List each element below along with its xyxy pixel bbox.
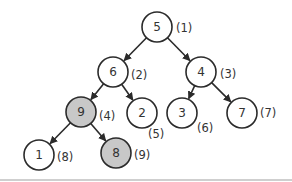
edge-arrow: [189, 86, 195, 99]
node-index-label: (5): [148, 127, 164, 141]
edge-arrow: [167, 38, 189, 61]
edge-arrow: [91, 123, 106, 140]
node-value: 8: [112, 146, 120, 160]
tree-node: 9(4): [66, 97, 115, 127]
edge-arrow: [212, 83, 231, 102]
node-value: 5: [153, 20, 161, 34]
tree-node: 3(6): [167, 98, 213, 135]
node-value: 4: [197, 65, 205, 79]
node-index-label: (9): [134, 148, 150, 162]
node-value: 3: [178, 106, 186, 120]
edge-arrow: [50, 123, 70, 144]
node-value: 6: [109, 65, 117, 79]
node-index-label: (8): [57, 150, 73, 164]
node-value: 1: [35, 148, 43, 162]
tree-node: 6(2): [98, 57, 147, 87]
node-index-label: (2): [131, 68, 147, 82]
node-index-label: (6): [197, 121, 213, 135]
tree-node: 8(9): [101, 138, 150, 168]
tree-node: 4(3): [186, 57, 236, 87]
node-value: 2: [138, 106, 146, 120]
node-value: 9: [77, 105, 85, 119]
edge-arrow: [91, 84, 104, 100]
tree-node: 2(5): [127, 98, 164, 141]
tree-node: 1(8): [24, 140, 73, 170]
edge-arrow: [124, 38, 146, 61]
node-index-label: (7): [260, 106, 276, 120]
tree-node: 5(1): [142, 12, 192, 42]
nodes-layer: 5(1)6(2)4(3)9(4)2(5)3(6)7(7)1(8)8(9): [24, 12, 276, 170]
node-index-label: (1): [176, 21, 192, 35]
tree-diagram: 5(1)6(2)4(3)9(4)2(5)3(6)7(7)1(8)8(9): [0, 0, 292, 182]
bottom-divider: [0, 179, 292, 181]
node-value: 7: [238, 106, 246, 120]
tree-node: 7(7): [227, 98, 276, 128]
edge-arrow: [122, 84, 133, 100]
node-index-label: (4): [99, 109, 115, 123]
node-index-label: (3): [220, 67, 236, 81]
